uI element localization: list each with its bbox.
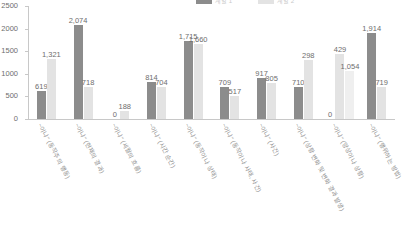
bar-value-label: 619	[35, 83, 48, 91]
bar-group: 0188	[101, 6, 138, 119]
bar-series-1: 710	[294, 87, 303, 119]
x-axis-label: ~이냐" (세월의 흐름)	[111, 122, 143, 174]
bar-value-label: 710	[292, 79, 305, 87]
bar-series-1: 1,715	[184, 41, 193, 119]
legend-label-series-2: 계열 2	[277, 0, 294, 5]
bar-value-label: 1,660	[189, 36, 208, 44]
bar-series-2: 188	[120, 111, 129, 119]
bar-value-label: 429	[334, 46, 347, 54]
legend-item: 계열 1	[196, 0, 232, 5]
plot-area: 05001000150020002500 6191,3212,074718018…	[28, 6, 395, 120]
bar-series-1: 2,074	[74, 25, 83, 119]
bar-series-2: 704	[157, 87, 166, 119]
legend-label-series-1: 계열 1	[215, 0, 232, 5]
bar-group: 6191,321	[28, 6, 65, 119]
x-axis-label: ~이냐" (행위하는 방법)	[368, 122, 403, 179]
bar-group: 917805	[248, 6, 285, 119]
x-axis-label: ~이냐" (현재의 결과)	[74, 122, 106, 174]
legend-swatch-series-2	[258, 0, 274, 4]
bar-value-label: 718	[82, 79, 95, 87]
y-axis-tick-label: 2000	[0, 25, 18, 32]
bar-group: 814704	[138, 6, 175, 119]
x-axis-label: ~이냐" (동작이나 사태, 사건)	[221, 122, 263, 193]
bar-value-label: 2,074	[69, 17, 88, 25]
y-axis-tick	[25, 119, 29, 120]
y-axis-tick-label: 1000	[0, 70, 18, 77]
x-axis-label: ~이냐" (시간 순간)	[147, 122, 176, 169]
x-axis-category-labels: ~이냐" (동작주의 행동)~이냐" (현재의 결과)~이냐" (세월의 흐름)…	[28, 122, 395, 242]
bar-group: 710298	[285, 6, 322, 119]
bar-value-label: 1,321	[42, 51, 61, 59]
bar-series-1: 814	[147, 82, 156, 119]
bar-value-label: 188	[118, 103, 131, 111]
y-axis-tick-label: 1500	[0, 47, 18, 54]
legend-item: 계열 2	[258, 0, 294, 5]
bar-value-label: 1,054	[341, 63, 360, 71]
bar-group: 1,7151,660	[175, 6, 212, 119]
bar-series-2: 805	[267, 83, 276, 119]
bar-series-2: 718	[84, 87, 93, 119]
bar-value-label: 0	[113, 111, 117, 119]
y-axis-tick-label: 2500	[0, 2, 18, 9]
bar-series-2: 1,660	[194, 44, 203, 119]
bar-groups: 6191,3212,07471801888147041,7151,6607095…	[28, 6, 395, 119]
x-axis-line	[28, 119, 395, 120]
bar-series-3: 1,054	[345, 71, 354, 119]
bar-group: 709517	[212, 6, 249, 119]
bar-series-1: 1,914	[367, 33, 376, 120]
bar-series-2: 1,321	[47, 59, 56, 119]
x-axis-label: ~이냐" (사건)	[257, 122, 280, 157]
y-axis-tick-label: 500	[0, 92, 18, 99]
bar-series-2: 517	[230, 96, 239, 119]
legend-swatch-series-1	[196, 0, 212, 4]
bar-group: 04291,054	[322, 6, 359, 119]
x-axis-label: ~이냐" (동작이나 상태)	[184, 122, 219, 179]
bar-value-label: 704	[155, 79, 168, 87]
bar-value-label: 517	[229, 88, 242, 96]
bar-value-label: 719	[375, 79, 388, 87]
bar-value-label: 298	[302, 52, 315, 60]
bar-series-2: 298	[304, 60, 313, 119]
bar-value-label: 0	[328, 111, 332, 119]
bar-series-1: 619	[37, 91, 46, 119]
x-axis-label: ~이냐" (동작주의 행동)	[37, 122, 72, 179]
bar-value-label: 805	[265, 75, 278, 83]
bar-series-1: 917	[257, 78, 266, 119]
x-axis-label: ~이냐" (양상이나 상황)	[331, 122, 366, 179]
bar-series-2: 719	[377, 87, 386, 119]
bar-value-label: 1,914	[362, 25, 381, 33]
bar-group: 2,074718	[65, 6, 102, 119]
bar-group: 1,914719	[358, 6, 395, 119]
y-axis-tick-label: 0	[0, 115, 18, 122]
